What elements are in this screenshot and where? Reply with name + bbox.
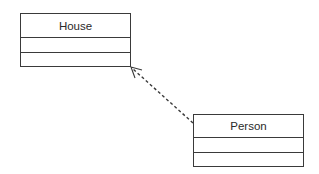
open-arrowhead-icon — [131, 67, 142, 78]
class-house[interactable]: House — [20, 13, 131, 67]
dependency-person-to-house[interactable] — [131, 67, 193, 123]
operations-compartment — [21, 53, 130, 66]
class-name: House — [21, 14, 130, 38]
attributes-compartment — [21, 38, 130, 53]
class-person[interactable]: Person — [193, 114, 304, 167]
attributes-compartment — [194, 138, 303, 153]
class-name: Person — [194, 115, 303, 138]
operations-compartment — [194, 153, 303, 166]
